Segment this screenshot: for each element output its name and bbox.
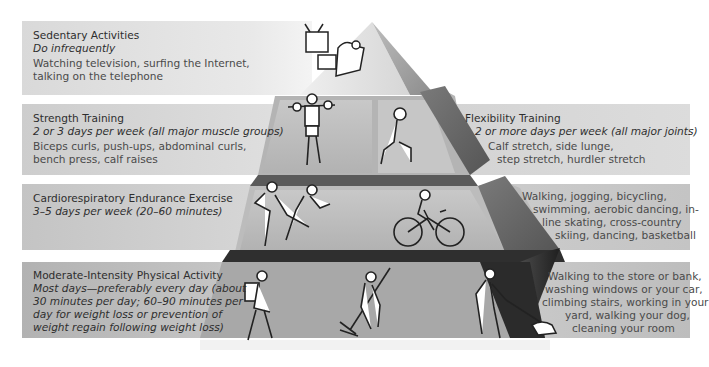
level-example-line: bench press, calf raises [33,153,284,166]
level-example-line: swimming, aerobic dancing, in- [522,203,699,216]
level-frequency: 2 or more days per week (all major joint… [465,125,698,138]
level-example-line: cleaning your room [545,322,708,335]
level-cardio-examples: Walking, jogging, bicycling, swimming, a… [522,190,699,242]
level-title: Moderate-Intensity Physical Activity [33,269,246,282]
level-frequency-line: day for weight loss or prevention of [33,308,246,321]
level-example-line: line skating, cross-country [522,216,699,229]
level-frequency: Do infrequently [33,42,250,55]
level-strength: Strength Training 2 or 3 days per week (… [33,112,284,166]
cardio-face [240,190,505,250]
level-example-line: talking on the telephone [33,70,250,83]
level-flexibility: Flexibility Training 2 or more days per … [465,112,698,166]
level-example-line: yard, walking your dog, [545,309,708,322]
level-frequency: 2 or 3 days per week (all major muscle g… [33,125,284,138]
level-moderate-examples: Walking to the store or bank, washing wi… [545,270,708,335]
level-frequency-line: Most days—preferably every day (about [33,282,246,295]
level-title: Strength Training [33,112,284,125]
level-example-line: step stretch, hurdler stretch [465,153,698,166]
level-example-line: Walking, jogging, bicycling, [522,190,699,203]
level-title: Cardiorespiratory Endurance Exercise [33,192,233,205]
tv-watching-illustration [305,24,364,76]
level-title: Flexibility Training [465,112,698,125]
level-sedentary: Sedentary Activities Do infrequently Wat… [33,29,250,83]
level-frequency: 3–5 days per week (20–60 minutes) [33,205,233,218]
level-example-line: Watching television, surfing the Interne… [33,57,250,70]
level-example-line: climbing stairs, working in your [542,296,708,309]
level-cardio: Cardiorespiratory Endurance Exercise 3–5… [33,192,233,218]
level-moderate: Moderate-Intensity Physical Activity Mos… [33,269,246,334]
level-frequency-line: 30 minutes per day; 60–90 minutes per [33,295,246,308]
level-example-line: Walking to the store or bank, [545,270,708,283]
level-title: Sedentary Activities [33,29,250,42]
level-example-line: Calf stretch, side lunge, [465,140,698,153]
level-example-line: washing windows or your car, [545,283,708,296]
level-example-line: Biceps curls, push-ups, abdominal curls, [33,140,284,153]
level-frequency-line: weight regain following weight loss) [33,321,246,334]
level-example-line: skiing, dancing, basketball [522,229,699,242]
